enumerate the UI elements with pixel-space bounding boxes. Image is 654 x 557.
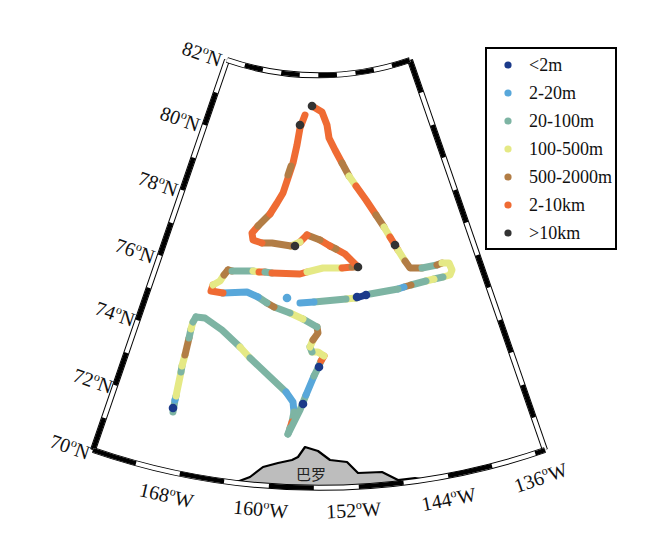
lat-label-72n: 72oN bbox=[70, 363, 116, 398]
track-segment bbox=[300, 302, 314, 303]
track-marker-layer bbox=[169, 102, 400, 413]
track-segment bbox=[270, 115, 305, 214]
track-segment bbox=[288, 166, 291, 175]
lon-label-152w: 152oW bbox=[326, 497, 382, 523]
legend-dot-icon bbox=[504, 173, 511, 180]
lon-label-160w: 160oW bbox=[232, 495, 289, 523]
track-point bbox=[315, 363, 324, 372]
track-point bbox=[362, 291, 371, 300]
lon-label-168w: 168oW bbox=[137, 477, 196, 512]
track-segment bbox=[370, 289, 398, 294]
land-label: 巴罗 bbox=[296, 466, 326, 484]
track-segment bbox=[176, 372, 181, 396]
track-segment bbox=[307, 268, 342, 272]
lat-label-76n: 76oN bbox=[112, 233, 158, 268]
lat-label-82n: 82oN bbox=[179, 36, 225, 71]
legend-label: 500-2000m bbox=[529, 167, 612, 187]
ship-track-layer bbox=[173, 106, 452, 434]
track-segment bbox=[250, 358, 286, 392]
legend-label: 2-10km bbox=[529, 195, 585, 215]
track-point bbox=[391, 241, 400, 250]
latitude-labels: 82oN 80oN 78oN 76oN 74oN 72oN 70oN bbox=[47, 36, 225, 464]
map-frame bbox=[93, 60, 545, 488]
track-point bbox=[354, 263, 363, 272]
legend-dot-icon bbox=[504, 89, 511, 96]
legend-label: >10km bbox=[529, 223, 580, 243]
legend-label: <2m bbox=[529, 55, 562, 75]
track-point bbox=[296, 121, 305, 130]
legend: <2m 2-20m 20-100m 100-500m 500-2000m 2-1… bbox=[486, 48, 616, 249]
track-segment bbox=[356, 186, 376, 215]
track-point bbox=[353, 293, 362, 302]
legend-label: 100-500m bbox=[529, 139, 603, 159]
legend-dot-icon bbox=[504, 229, 511, 236]
lat-label-74n: 74oN bbox=[92, 296, 138, 331]
track-point bbox=[169, 404, 178, 413]
legend-dot-icon bbox=[504, 201, 511, 208]
track-point bbox=[299, 400, 308, 409]
legend-label: 20-100m bbox=[529, 111, 594, 131]
map-figure: 巴罗 82oN 80oN 78oN 76oN 74oN 72oN 70oN 16… bbox=[0, 0, 654, 557]
legend-dot-icon bbox=[504, 145, 511, 152]
track-point bbox=[283, 294, 292, 303]
track-point bbox=[291, 242, 300, 251]
track-point bbox=[308, 102, 317, 111]
map-canvas: 巴罗 82oN 80oN 78oN 76oN 74oN 72oN 70oN 16… bbox=[0, 0, 654, 557]
lon-label-136w: 136oW bbox=[511, 457, 570, 497]
track-segment bbox=[312, 106, 342, 163]
lat-label-78n: 78oN bbox=[135, 166, 181, 201]
track-segment bbox=[262, 243, 291, 246]
track-segment bbox=[272, 272, 307, 274]
track-segment bbox=[196, 317, 240, 347]
track-segment bbox=[314, 299, 346, 302]
lat-label-70n: 70oN bbox=[47, 429, 93, 464]
lon-label-144w: 144oW bbox=[419, 482, 477, 515]
legend-dot-icon bbox=[504, 117, 511, 124]
legend-dot-icon bbox=[504, 61, 511, 68]
lat-label-80n: 80oN bbox=[157, 101, 203, 136]
track-segment bbox=[223, 292, 258, 297]
legend-label: 2-20m bbox=[529, 83, 576, 103]
